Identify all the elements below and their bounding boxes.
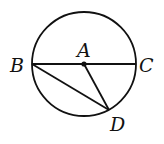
circle-diagram: A B C D: [0, 0, 164, 144]
label-C: C: [139, 54, 154, 76]
label-B: B: [9, 54, 24, 76]
label-A: A: [75, 39, 91, 61]
label-D: D: [109, 113, 125, 135]
center-point-A: [81, 61, 86, 66]
